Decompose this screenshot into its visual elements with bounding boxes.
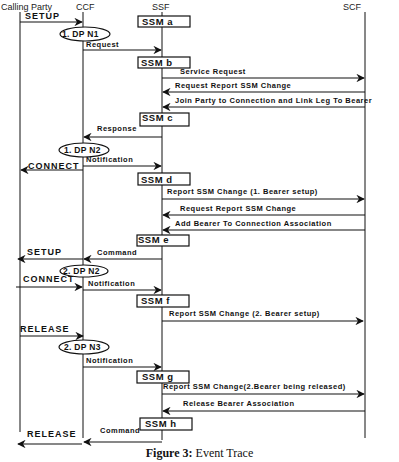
- figure-label: Figure 3:: [146, 446, 193, 460]
- figure-title: Event Trace: [193, 446, 254, 460]
- ssm-label-b: SSM b: [141, 57, 173, 68]
- label-release-bearer: Release Bearer Association: [183, 399, 295, 408]
- label-add-bearer: Add Bearer To Connection Association: [175, 219, 332, 228]
- label-service-request: Service Request: [180, 67, 246, 76]
- ssm-label-d: SSM d: [141, 174, 173, 185]
- label-join-party: Join Party to Connection and Link Leg To…: [175, 96, 372, 105]
- lifeline-label-scf: SCF: [343, 2, 362, 12]
- label-request-report-1: Request Report SSM Change: [175, 81, 291, 90]
- label-setup-1: SETUP: [25, 11, 60, 21]
- label-command-1: Command: [97, 248, 137, 257]
- label-report-change-3: Report SSM Change(2.Bearer being release…: [163, 382, 346, 391]
- label-setup-2: SETUP: [27, 247, 62, 257]
- lifeline-label-ssf: SSF: [152, 2, 170, 12]
- ssm-label-f: SSM f: [141, 295, 170, 306]
- label-notification-1: Notification: [86, 155, 133, 164]
- event-trace-diagram: Calling Party CCF SSF SCF SSM a SSM b SS…: [0, 0, 399, 462]
- ssm-label-a: SSM a: [142, 16, 173, 27]
- label-connect-1: CONNECT: [28, 161, 80, 171]
- label-connect-2: CONNECT: [23, 274, 75, 284]
- label-request-report-2: Request Report SSM Change: [180, 204, 296, 213]
- ssm-label-h: SSM h: [145, 418, 177, 429]
- label-notification-3: Notification: [86, 356, 133, 365]
- dp-label-1-n1: 1. DP N1: [62, 29, 99, 39]
- label-response: Response: [97, 124, 137, 133]
- label-notification-2: Notification: [88, 279, 135, 288]
- ssm-label-c: SSM c: [142, 112, 173, 123]
- lifeline-label-ccf: CCF: [76, 2, 95, 12]
- label-release-1: RELEASE: [20, 324, 70, 334]
- label-request: Request: [86, 40, 119, 49]
- label-report-change-2: Report SSM Change (2. Bearer setup): [169, 309, 320, 318]
- dp-label-1-n2: 1. DP N2: [64, 145, 101, 155]
- label-report-change-1: Report SSM Change (1. Bearer setup): [167, 187, 318, 196]
- figure-caption: Figure 3: Event Trace: [0, 446, 399, 461]
- label-release-2: RELEASE: [27, 429, 77, 439]
- dp-label-2-n3: 2. DP N3: [64, 342, 101, 352]
- ssm-label-g: SSM g: [142, 371, 174, 382]
- ssm-label-e: SSM e: [138, 234, 169, 245]
- label-command-2: Command: [100, 426, 140, 435]
